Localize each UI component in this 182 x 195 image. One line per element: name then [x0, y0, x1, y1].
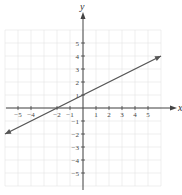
y-tick-label: −1 — [72, 118, 80, 126]
y-tick-label: −4 — [72, 157, 80, 165]
x-tick-label: 3 — [120, 111, 124, 119]
x-tick-label: −5 — [14, 111, 22, 119]
y-tick-label: 2 — [76, 79, 80, 87]
x-tick-label: −4 — [27, 111, 35, 119]
x-tick-label: 5 — [146, 111, 150, 119]
x-tick-label: 4 — [133, 111, 137, 119]
y-axis-arrow-icon — [81, 12, 86, 19]
y-tick-label: 3 — [76, 66, 80, 74]
y-tick-label: 5 — [76, 40, 80, 48]
x-tick-label: 1 — [94, 111, 98, 119]
y-axis-label: y — [79, 1, 85, 12]
y-tick-label: −2 — [72, 131, 80, 139]
x-axis-arrow-icon — [170, 106, 177, 111]
x-tick-label: −2 — [53, 111, 61, 119]
x-tick-label: 2 — [107, 111, 111, 119]
y-tick-label: 4 — [76, 53, 80, 61]
y-tick-label: −3 — [72, 144, 80, 152]
x-axis-label: x — [177, 102, 182, 113]
y-tick-label: −5 — [72, 170, 80, 178]
coordinate-plane: xy−5−4−2−11234554321−1−2−3−4−5 — [0, 0, 182, 195]
